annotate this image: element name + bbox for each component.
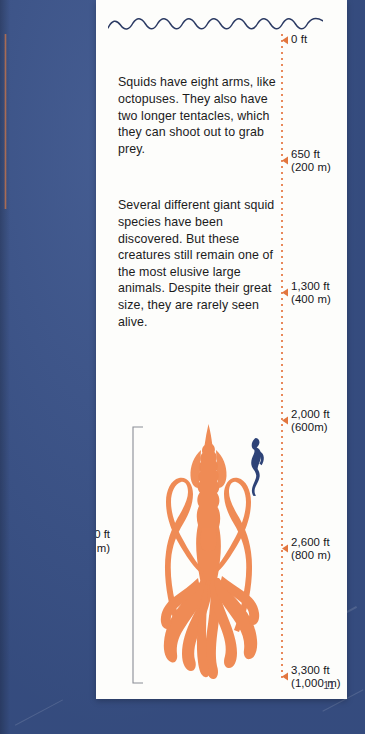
- marker-triangle-icon: [282, 289, 288, 297]
- page-number: 11: [323, 679, 335, 691]
- page-content-panel: Squids have eight arms, like octopuses. …: [96, 0, 347, 699]
- depth-marker-650ft: 650 ft (200 m): [282, 148, 331, 175]
- squid-size-label: 40 ft (12 m): [96, 528, 110, 555]
- marker-triangle-icon: [282, 36, 288, 44]
- depth-marker-0ft: 0 ft: [282, 33, 307, 46]
- squid-scale-illustration: 40 ft (12 m): [96, 424, 347, 686]
- left-edge-orange-sliver: [4, 34, 7, 209]
- depth-marker-1300ft: 1,300 ft (400 m): [282, 280, 331, 307]
- depth-marker-label: 1,300 ft (400 m): [291, 280, 331, 307]
- scuba-diver-icon: [246, 438, 268, 496]
- marker-triangle-icon: [282, 157, 288, 165]
- book-page-spread: Squids have eight arms, like octopuses. …: [0, 0, 365, 734]
- paper-scuff: [15, 699, 63, 725]
- depth-marker-label: 0 ft: [291, 33, 307, 46]
- depth-marker-label: 650 ft (200 m): [291, 148, 331, 175]
